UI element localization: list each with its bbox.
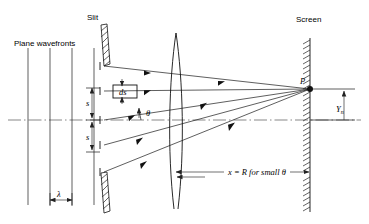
plane-wavefront-lines [28,48,94,205]
diffracted-rays [104,66,310,172]
element-ds-label: ds [119,87,127,97]
point-p-label: P [299,76,305,86]
wavelength-dimension [50,193,72,206]
slit-aperture-icon [101,24,110,213]
displacement-label: Yn [336,104,344,115]
wavelength-label: λ [56,189,61,199]
half-slit-upper-label: s [86,98,90,108]
screen-hatch-icon [303,38,310,212]
displacement-dimension [310,89,355,120]
theta-angle-marker [139,108,141,120]
convex-lens-icon [170,33,183,209]
slit-label: Slit [87,13,99,22]
plane-wavefronts-label: Plane wavefronts [14,39,75,48]
theta-label: θ [146,108,150,118]
half-slit-lower-label: s [86,132,90,142]
distance-label: x = R for small θ [227,167,286,177]
diffraction-figure: Plane wavefronts λ [0,0,369,224]
figure-canvas: Plane wavefronts λ [0,0,369,224]
screen-label: Screen [296,15,321,24]
